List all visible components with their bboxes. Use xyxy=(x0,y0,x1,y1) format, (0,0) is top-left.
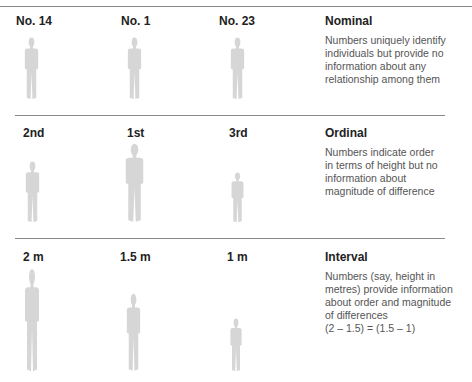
divider-top xyxy=(0,6,472,7)
person-label: 2nd xyxy=(23,126,44,140)
description-line: Numbers (say, height in xyxy=(325,270,472,283)
description-line: of differences xyxy=(325,309,472,322)
scale-description: Numbers indicate order in terms of heigh… xyxy=(325,146,472,198)
description-line: magnitude of difference xyxy=(325,185,472,198)
description-line: in terms of height but no xyxy=(325,159,472,172)
person-figure-icon xyxy=(228,318,244,372)
divider-row2-row3 xyxy=(15,238,445,239)
scale-description: Numbers uniquely identify individuals bu… xyxy=(325,34,472,86)
person-figure-icon xyxy=(125,37,144,100)
person-figure-icon xyxy=(22,37,41,100)
person-label: 2 m xyxy=(23,250,44,264)
person-figure-icon xyxy=(229,172,246,223)
divider-row1-row2 xyxy=(15,115,445,116)
person-label: 1st xyxy=(127,126,144,140)
person-figure-icon xyxy=(22,268,42,373)
person-figure-icon xyxy=(23,161,42,223)
person-label: No. 1 xyxy=(121,14,150,28)
description-line: Numbers indicate order xyxy=(325,146,472,159)
person-label: 1 m xyxy=(227,250,248,264)
description-line: information about xyxy=(325,172,472,185)
description-line: information about any xyxy=(325,60,472,73)
person-label: No. 14 xyxy=(16,14,52,28)
person-figure-icon xyxy=(122,143,147,223)
scale-description: Numbers (say, height in metres) provide … xyxy=(325,270,472,335)
person-label: No. 23 xyxy=(219,14,255,28)
scale-title: Ordinal xyxy=(325,126,367,140)
description-equation: (2 – 1.5) = (1.5 – 1) xyxy=(325,322,472,335)
scale-title: Interval xyxy=(325,250,368,264)
description-line: individuals but provide no xyxy=(325,47,472,60)
description-line: relationship among them xyxy=(325,73,472,86)
description-line: about order and magnitude xyxy=(325,296,472,309)
description-line: metres) provide information xyxy=(325,283,472,296)
person-label: 1.5 m xyxy=(120,250,151,264)
person-label: 3rd xyxy=(229,126,248,140)
person-figure-icon xyxy=(228,37,247,100)
person-figure-icon xyxy=(124,293,143,372)
scale-title: Nominal xyxy=(325,14,372,28)
description-line: Numbers uniquely identify xyxy=(325,34,472,47)
